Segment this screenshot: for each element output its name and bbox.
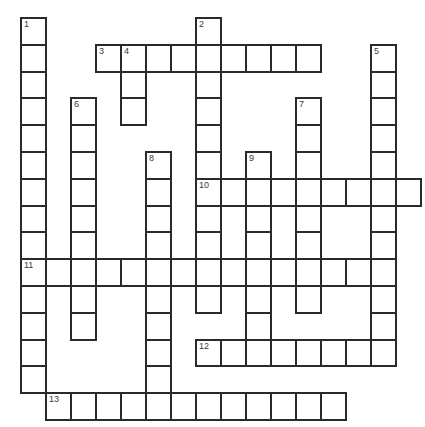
crossword-cell[interactable]: [195, 205, 222, 234]
crossword-cell-numbered-8[interactable]: 8: [145, 151, 172, 180]
crossword-cell[interactable]: [20, 124, 47, 153]
crossword-cell-numbered-11[interactable]: 11: [20, 258, 47, 287]
crossword-cell[interactable]: [145, 205, 172, 234]
crossword-cell[interactable]: [295, 44, 322, 73]
crossword-cell[interactable]: [95, 258, 122, 287]
crossword-cell[interactable]: [70, 205, 97, 234]
crossword-cell[interactable]: [270, 258, 297, 287]
crossword-cell[interactable]: [145, 258, 172, 287]
crossword-cell-numbered-5[interactable]: 5: [370, 44, 397, 73]
crossword-cell[interactable]: [70, 285, 97, 314]
crossword-cell[interactable]: [70, 178, 97, 207]
crossword-cell[interactable]: [370, 285, 397, 314]
crossword-cell[interactable]: [295, 339, 322, 368]
crossword-cell-numbered-4[interactable]: 4: [120, 44, 147, 73]
crossword-cell[interactable]: [370, 205, 397, 234]
crossword-cell[interactable]: [195, 44, 222, 73]
crossword-cell[interactable]: [345, 258, 372, 287]
crossword-cell[interactable]: [270, 178, 297, 207]
crossword-cell[interactable]: [170, 392, 197, 421]
crossword-cell[interactable]: [195, 97, 222, 126]
crossword-cell[interactable]: [370, 97, 397, 126]
crossword-cell[interactable]: [145, 365, 172, 394]
crossword-cell[interactable]: [195, 124, 222, 153]
crossword-cell[interactable]: [245, 285, 272, 314]
crossword-cell[interactable]: [245, 231, 272, 260]
crossword-cell[interactable]: [295, 124, 322, 153]
crossword-cell[interactable]: [145, 285, 172, 314]
crossword-cell[interactable]: [270, 392, 297, 421]
crossword-cell[interactable]: [395, 178, 422, 207]
crossword-cell-numbered-2[interactable]: 2: [195, 17, 222, 46]
crossword-cell[interactable]: [320, 258, 347, 287]
crossword-cell[interactable]: [145, 392, 172, 421]
crossword-cell[interactable]: [20, 178, 47, 207]
crossword-cell-numbered-9[interactable]: 9: [245, 151, 272, 180]
crossword-cell[interactable]: [370, 71, 397, 100]
crossword-cell[interactable]: [195, 151, 222, 180]
crossword-cell[interactable]: [195, 231, 222, 260]
crossword-cell[interactable]: [70, 258, 97, 287]
crossword-cell[interactable]: [70, 231, 97, 260]
crossword-cell[interactable]: [245, 312, 272, 341]
crossword-cell[interactable]: [70, 312, 97, 341]
crossword-cell[interactable]: [320, 339, 347, 368]
crossword-cell[interactable]: [20, 97, 47, 126]
crossword-cell[interactable]: [320, 392, 347, 421]
crossword-cell[interactable]: [145, 178, 172, 207]
crossword-cell[interactable]: [270, 339, 297, 368]
crossword-cell[interactable]: [245, 392, 272, 421]
crossword-cell[interactable]: [245, 178, 272, 207]
crossword-cell[interactable]: [195, 258, 222, 287]
crossword-cell[interactable]: [370, 231, 397, 260]
crossword-cell[interactable]: [270, 44, 297, 73]
crossword-cell[interactable]: [120, 97, 147, 126]
crossword-cell-numbered-1[interactable]: 1: [20, 17, 47, 46]
crossword-cell[interactable]: [295, 392, 322, 421]
crossword-cell[interactable]: [20, 151, 47, 180]
crossword-cell[interactable]: [370, 178, 397, 207]
crossword-cell[interactable]: [20, 365, 47, 394]
crossword-cell[interactable]: [120, 71, 147, 100]
crossword-cell[interactable]: [370, 124, 397, 153]
crossword-cell[interactable]: [370, 151, 397, 180]
crossword-cell[interactable]: [145, 231, 172, 260]
crossword-cell[interactable]: [245, 44, 272, 73]
crossword-cell[interactable]: [70, 151, 97, 180]
crossword-cell[interactable]: [20, 339, 47, 368]
crossword-cell[interactable]: [295, 231, 322, 260]
crossword-cell[interactable]: [170, 258, 197, 287]
crossword-cell[interactable]: [345, 178, 372, 207]
crossword-cell[interactable]: [120, 392, 147, 421]
crossword-grid[interactable]: 12345678910111213: [0, 0, 425, 427]
crossword-cell[interactable]: [20, 312, 47, 341]
crossword-cell[interactable]: [295, 205, 322, 234]
crossword-cell[interactable]: [120, 258, 147, 287]
crossword-cell[interactable]: [320, 178, 347, 207]
crossword-cell[interactable]: [20, 285, 47, 314]
crossword-cell[interactable]: [195, 71, 222, 100]
crossword-cell[interactable]: [220, 44, 247, 73]
crossword-cell[interactable]: [345, 339, 372, 368]
crossword-cell[interactable]: [145, 44, 172, 73]
crossword-cell[interactable]: [245, 205, 272, 234]
crossword-cell[interactable]: [70, 392, 97, 421]
crossword-cell[interactable]: [195, 392, 222, 421]
crossword-cell[interactable]: [370, 258, 397, 287]
crossword-cell[interactable]: [20, 231, 47, 260]
crossword-cell-numbered-3[interactable]: 3: [95, 44, 122, 73]
crossword-cell[interactable]: [245, 339, 272, 368]
crossword-cell[interactable]: [220, 178, 247, 207]
crossword-cell[interactable]: [370, 339, 397, 368]
crossword-cell[interactable]: [20, 44, 47, 73]
crossword-cell-numbered-10[interactable]: 10: [195, 178, 222, 207]
crossword-cell[interactable]: [145, 312, 172, 341]
crossword-cell-numbered-12[interactable]: 12: [195, 339, 222, 368]
crossword-cell[interactable]: [245, 258, 272, 287]
crossword-cell-numbered-7[interactable]: 7: [295, 97, 322, 126]
crossword-cell[interactable]: [20, 205, 47, 234]
crossword-cell[interactable]: [295, 178, 322, 207]
crossword-cell-numbered-6[interactable]: 6: [70, 97, 97, 126]
crossword-cell[interactable]: [170, 44, 197, 73]
crossword-cell[interactable]: [20, 71, 47, 100]
